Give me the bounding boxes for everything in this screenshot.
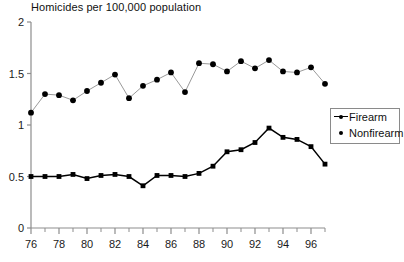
- data-point: [57, 174, 62, 179]
- data-point: [196, 60, 202, 66]
- x-tick-label: 88: [193, 238, 205, 250]
- x-tick-label: 82: [109, 238, 121, 250]
- x-tick-label: 92: [249, 238, 261, 250]
- data-point: [56, 92, 62, 98]
- data-point: [224, 69, 230, 75]
- data-point: [169, 173, 174, 178]
- x-tick-label: 86: [165, 238, 177, 250]
- data-point: [253, 140, 258, 145]
- data-point: [183, 174, 188, 179]
- y-tick-label: 2: [18, 16, 24, 28]
- data-point: [85, 176, 90, 181]
- data-point: [322, 81, 328, 87]
- chart-axes: [31, 22, 325, 228]
- chart-container: Homicides per 100,000 population 00.511.…: [0, 0, 404, 262]
- y-tick-label: 1: [18, 119, 24, 131]
- data-point: [155, 173, 160, 178]
- x-tick-label: 94: [277, 238, 289, 250]
- data-point: [281, 135, 286, 140]
- chart-legend: Firearm Nonfirearm: [330, 108, 400, 144]
- data-point: [238, 58, 244, 64]
- data-point: [140, 83, 146, 89]
- series-nonfirearm: [28, 57, 328, 115]
- data-point: [98, 80, 104, 86]
- data-point: [280, 69, 286, 75]
- y-axis-ticks: 00.511.52: [9, 16, 31, 234]
- legend-label-nonfirearm: Nonfirearm: [348, 126, 403, 140]
- data-point: [294, 70, 300, 76]
- data-point: [182, 89, 188, 95]
- data-point: [308, 64, 314, 70]
- data-point: [84, 88, 90, 94]
- data-point: [99, 173, 104, 178]
- data-point: [28, 110, 34, 116]
- x-axis-ticks: 7678808284868890929496: [25, 228, 325, 250]
- data-point: [239, 147, 244, 152]
- series-firearm: [29, 126, 328, 188]
- data-point: [323, 162, 328, 167]
- data-point: [267, 126, 272, 131]
- y-tick-label: 1.5: [9, 68, 24, 80]
- data-point: [43, 174, 48, 179]
- data-point: [126, 95, 132, 101]
- data-point: [210, 61, 216, 67]
- data-point: [168, 70, 174, 76]
- x-tick-label: 84: [137, 238, 149, 250]
- y-tick-label: 0.5: [9, 171, 24, 183]
- data-point: [127, 174, 132, 179]
- legend-item-firearm: Firearm: [331, 109, 399, 125]
- data-point: [42, 91, 48, 97]
- data-point: [71, 172, 76, 177]
- legend-line-marker-icon: [334, 110, 348, 124]
- legend-label-firearm: Firearm: [348, 110, 387, 124]
- x-tick-label: 76: [25, 238, 37, 250]
- data-point: [29, 174, 34, 179]
- y-tick-label: 0: [18, 222, 24, 234]
- data-point: [70, 97, 76, 103]
- data-point: [225, 149, 230, 154]
- x-tick-label: 96: [305, 238, 317, 250]
- legend-item-nonfirearm: Nonfirearm: [331, 125, 399, 141]
- data-point: [309, 144, 314, 149]
- data-point: [154, 77, 160, 83]
- data-point: [211, 164, 216, 169]
- data-point: [266, 57, 272, 63]
- data-point: [112, 72, 118, 78]
- data-point: [141, 183, 146, 188]
- x-tick-label: 80: [81, 238, 93, 250]
- x-tick-label: 78: [53, 238, 65, 250]
- data-point: [252, 65, 258, 71]
- data-point: [113, 172, 118, 177]
- x-tick-label: 90: [221, 238, 233, 250]
- data-point: [295, 137, 300, 142]
- legend-dot-icon: [334, 126, 348, 140]
- data-point: [197, 171, 202, 176]
